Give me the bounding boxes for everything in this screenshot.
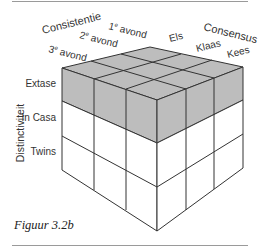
label-twins: Twins <box>30 146 56 157</box>
label-klaas: Klaas <box>195 37 222 54</box>
label-kees: Kees <box>226 44 251 60</box>
label-3e-avond: 3e avond <box>48 43 88 63</box>
label-in-casa: In Casa <box>22 112 57 123</box>
figure-caption: Figuur 3.2b <box>14 218 74 233</box>
label-extase: Extase <box>25 78 56 89</box>
kelley-cube-diagram: Consistentie 3e avond 2e avond 1e avond … <box>0 0 258 251</box>
label-els: Els <box>168 30 184 44</box>
label-2e-avond: 2e avond <box>79 29 119 49</box>
